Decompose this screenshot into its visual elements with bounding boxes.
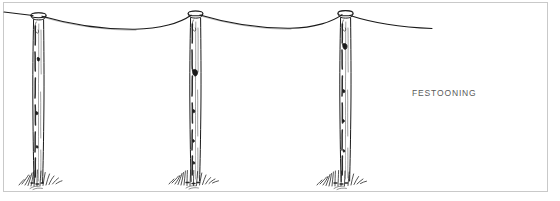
post-right-cap [338, 11, 353, 19]
post-right-knots [343, 43, 347, 152]
post-center-bark-texture [192, 24, 193, 175]
festooning-caption: FESTOONING [412, 88, 477, 98]
festoon-wire [4, 12, 432, 30]
grass-center [169, 170, 219, 189]
post-center-bark-lines [195, 22, 198, 179]
post-left-bark-lines [38, 24, 41, 181]
post-left-knots [36, 58, 40, 149]
festooning-figure: FESTOONING [0, 0, 560, 201]
post-center-cap [188, 11, 203, 18]
post-center-knots [193, 69, 198, 164]
grass-left [19, 170, 62, 190]
festooning-drawing [0, 0, 560, 201]
grass-right [317, 171, 367, 190]
post-center [188, 11, 203, 182]
post-left-bark-texture [35, 26, 36, 177]
post-left [31, 13, 46, 184]
post-right [338, 11, 353, 182]
